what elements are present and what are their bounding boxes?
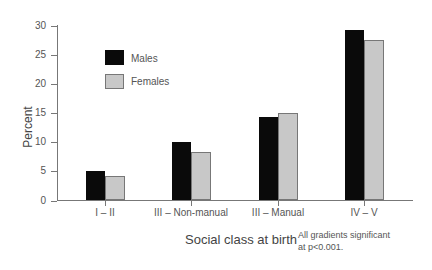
x-tick — [191, 201, 192, 206]
bar-females — [105, 176, 125, 200]
x-tick — [278, 201, 279, 206]
x-category-label: III – Manual — [228, 207, 328, 218]
legend-swatch-females — [105, 74, 124, 89]
note-line-1: All gradients significant — [298, 229, 428, 241]
bar-males — [86, 171, 106, 200]
y-tick — [51, 26, 57, 27]
legend-label-males: Males — [131, 53, 158, 64]
x-category-label: IV – V — [314, 207, 414, 218]
y-tick — [51, 142, 57, 143]
y-axis-label: Percent — [21, 97, 35, 157]
x-axis-label: Social class at birth — [185, 232, 297, 247]
y-tick — [51, 201, 57, 202]
y-tick — [51, 84, 57, 85]
y-tick-label: 30 — [16, 21, 46, 31]
bar-males — [259, 117, 279, 200]
bar-females — [278, 113, 298, 200]
significance-note: All gradients significant at p<0.001. — [298, 229, 428, 253]
note-line-2: at p<0.001. — [298, 241, 428, 253]
x-category-label: I – II — [55, 207, 155, 218]
x-category-label: III – Non-manual — [141, 207, 241, 218]
y-tick — [51, 113, 57, 114]
y-tick — [51, 171, 57, 172]
x-tick — [105, 201, 106, 206]
y-tick-label: 0 — [16, 196, 46, 206]
bar-females — [364, 40, 384, 201]
bar-males — [345, 30, 365, 201]
bar-females — [191, 152, 211, 201]
legend-swatch-males — [105, 50, 124, 65]
y-tick-label: 5 — [16, 166, 46, 176]
x-tick — [364, 201, 365, 206]
y-tick-label: 20 — [16, 79, 46, 89]
y-axis — [57, 25, 58, 201]
legend-label-females: Females — [131, 76, 169, 87]
y-tick — [51, 55, 57, 56]
bar-males — [172, 142, 192, 200]
y-tick-label: 25 — [16, 50, 46, 60]
